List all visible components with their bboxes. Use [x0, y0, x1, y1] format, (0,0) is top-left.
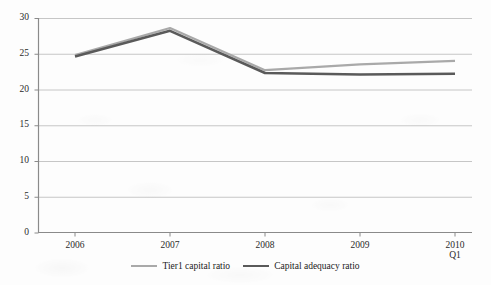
gridlines-group: [39, 19, 473, 198]
y-axis-tick-label: 25: [0, 48, 29, 59]
chart-figure: 051015202530 20062007200820092010 Q1 Tie…: [0, 0, 491, 285]
x-axis-tick-label: 2010 Q1: [415, 240, 491, 261]
x-axis-tick-label: 2006: [35, 240, 115, 251]
y-axis-tick-label: 15: [0, 119, 29, 130]
x-axis-tick-label: 2007: [130, 240, 210, 251]
series-line-capital-adequacy-ratio: [75, 31, 455, 75]
data-series-group: [75, 28, 455, 74]
legend-label-tier1-capital-ratio: Tier1 capital ratio: [162, 261, 230, 271]
y-axis-tick-label: 5: [0, 191, 29, 202]
y-axis-tick-label: 0: [0, 227, 29, 238]
x-axis-tick-label: 2008: [225, 240, 305, 251]
legend-label-capital-adequacy-ratio: Capital adequacy ratio: [274, 261, 359, 271]
series-line-tier1-capital-ratio: [75, 28, 455, 70]
y-axis-tick-label: 30: [0, 12, 29, 23]
y-axis-tick-label: 10: [0, 155, 29, 166]
y-axis-tick-label: 20: [0, 84, 29, 95]
x-axis-tick-label: 2009: [320, 240, 400, 251]
legend-swatch-icon-tier1-capital-ratio: [131, 265, 157, 267]
legend-swatch-icon-capital-adequacy-ratio: [243, 265, 269, 267]
chart-legend: Tier1 capital ratio Capital adequacy rat…: [0, 261, 491, 271]
legend-item-capital-adequacy-ratio: Capital adequacy ratio: [243, 261, 359, 271]
legend-item-tier1-capital-ratio: Tier1 capital ratio: [131, 261, 230, 271]
